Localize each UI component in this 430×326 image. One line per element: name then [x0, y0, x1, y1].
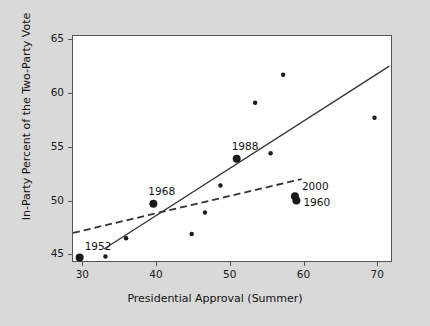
y-tick-label: 60 — [40, 86, 64, 98]
y-tick-mark — [68, 254, 72, 255]
x-tick-label: 60 — [295, 268, 313, 280]
data-point — [218, 183, 222, 187]
data-point — [253, 101, 257, 105]
data-point — [268, 151, 272, 155]
point-label: 2000 — [302, 180, 329, 192]
point-label: 1960 — [303, 196, 330, 208]
y-tick-label: 55 — [40, 140, 64, 152]
data-point — [233, 155, 241, 163]
x-tick-mark — [304, 262, 305, 266]
point-label: 1968 — [148, 185, 175, 197]
data-point — [76, 254, 84, 262]
data-point — [124, 236, 128, 240]
point-label: 1988 — [232, 140, 259, 152]
data-point — [190, 232, 194, 236]
y-tick-label: 50 — [40, 194, 64, 206]
data-point — [292, 197, 300, 205]
x-tick-mark — [377, 262, 378, 266]
x-tick-mark — [156, 262, 157, 266]
y-tick-mark — [68, 201, 72, 202]
x-tick-mark — [230, 262, 231, 266]
x-tick-mark — [82, 262, 83, 266]
x-tick-label: 30 — [73, 268, 91, 280]
y-tick-mark — [68, 147, 72, 148]
x-axis-title: Presidential Approval (Summer) — [0, 292, 430, 305]
data-point — [103, 254, 107, 258]
x-tick-label: 50 — [221, 268, 239, 280]
solid-regression-line — [104, 66, 389, 249]
point-label: 1952 — [85, 240, 112, 252]
data-point — [149, 200, 157, 208]
y-tick-mark — [68, 93, 72, 94]
data-point — [203, 210, 207, 214]
data-point — [281, 73, 285, 77]
scatter-plot-figure: 30405060704550556065 In-Party Percent of… — [0, 0, 430, 326]
y-tick-label: 45 — [40, 247, 64, 259]
data-point — [372, 116, 376, 120]
x-tick-label: 40 — [147, 268, 165, 280]
dashed-regression-line — [73, 179, 302, 233]
y-axis-title: In-Party Percent of the Two-Party Vote — [20, 7, 33, 227]
x-tick-label: 70 — [368, 268, 386, 280]
y-tick-mark — [68, 39, 72, 40]
y-tick-label: 65 — [40, 32, 64, 44]
